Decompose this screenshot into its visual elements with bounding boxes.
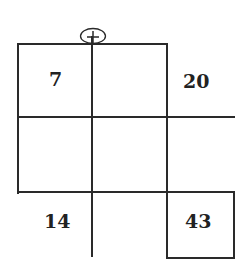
cell-bottom-left-value: 14 [44, 212, 70, 231]
grid-middle-horizontal-line [17, 116, 235, 118]
grid-middle-line [91, 36, 93, 257]
grid-bottom-line [17, 191, 168, 193]
cell-top-right-value: 20 [183, 72, 209, 91]
plus-circle-icon [79, 27, 107, 45]
cell-top-left-value: 7 [49, 70, 62, 89]
grid-left-line [17, 43, 19, 194]
cell-bottom-right-value: 43 [185, 212, 211, 231]
grid-right-line [166, 43, 168, 194]
